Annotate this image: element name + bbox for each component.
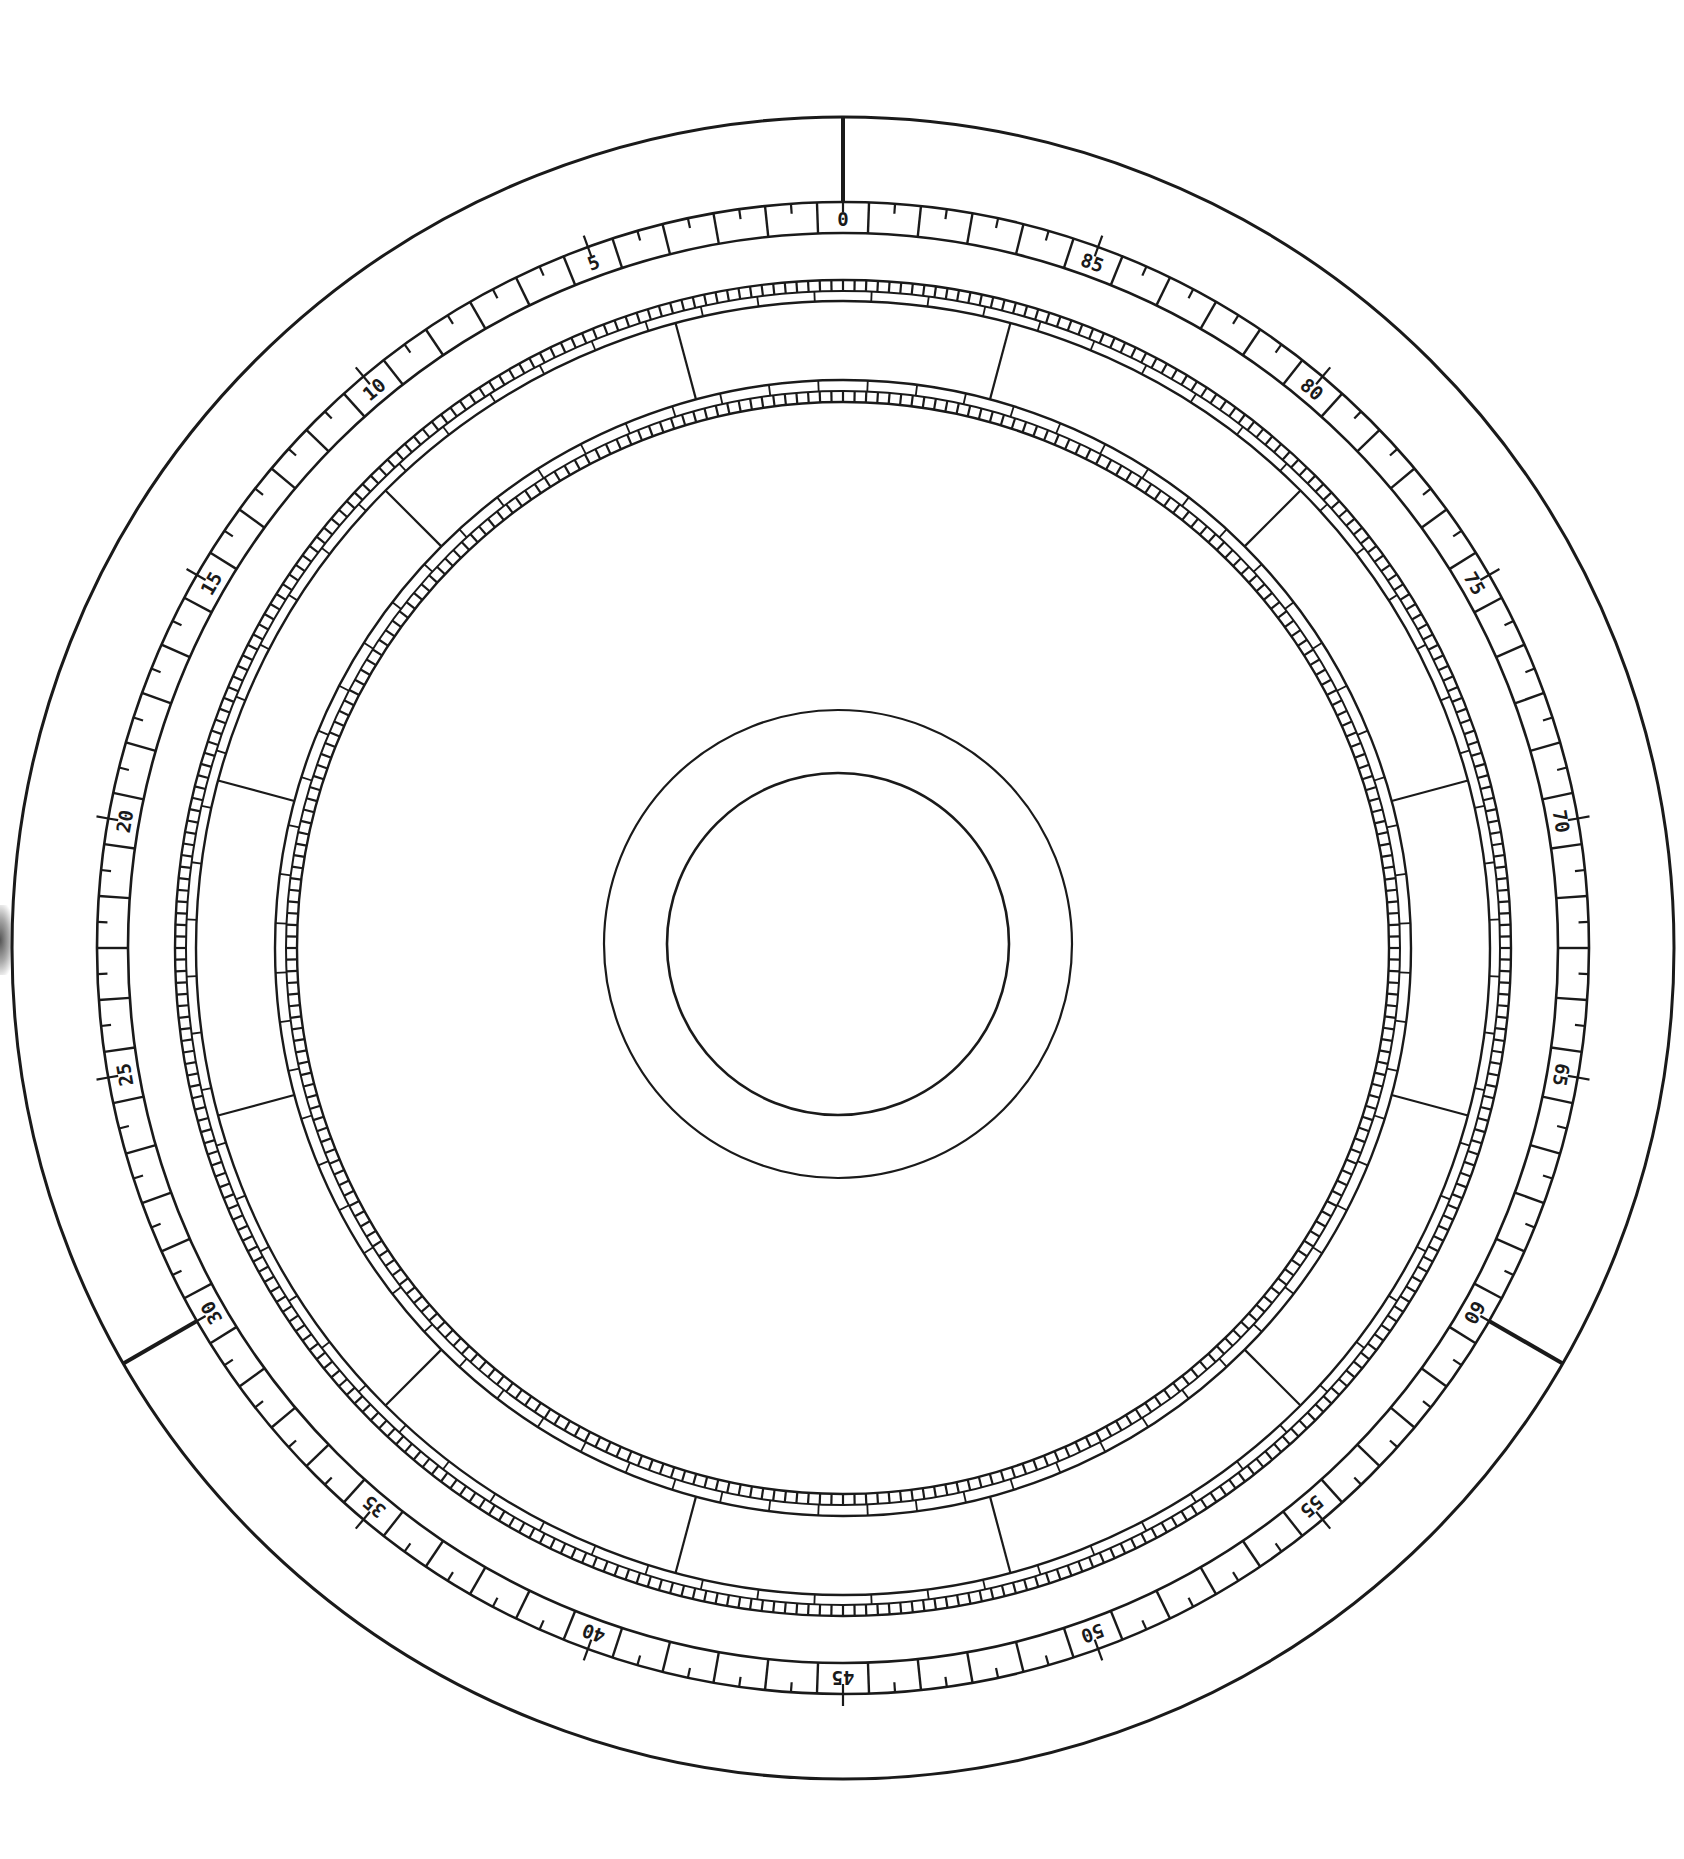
inner-segmented-band [275,380,1411,1516]
scale-label-25: 25 [112,1061,138,1087]
center-hub-rings [604,710,1072,1178]
scale-label-40: 40 [579,1619,608,1648]
scale-label-45: 45 [832,1667,855,1689]
scale-label-70: 70 [1549,808,1575,834]
scale-label-50: 50 [1078,1619,1107,1648]
scale-label-65: 65 [1549,1061,1575,1087]
dial-diagram: 0510152025303540455055606570758085 [0,0,1684,1859]
scale-label-0: 0 [837,208,848,230]
degree-scale-ring [97,202,1590,1706]
scale-label-5: 5 [584,250,602,275]
radial-connector-lines [218,323,1468,1573]
scale-label-85: 85 [1078,248,1107,277]
outer-circle [12,117,1674,1779]
outer-segmented-band [175,280,1511,1616]
scale-label-20: 20 [112,808,138,834]
scale-labels: 0510152025303540455055606570758085 [112,208,1574,1689]
